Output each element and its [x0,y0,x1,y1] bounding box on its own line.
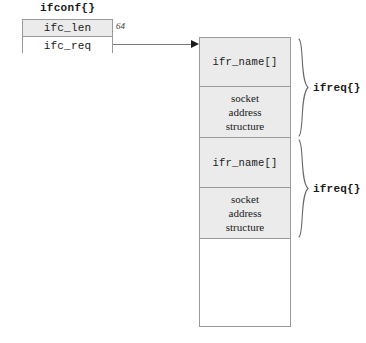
ifreq-1-sockaddr-cell: socket address structure [200,188,290,239]
ifreq-0-sockaddr-line-1: socket [231,91,259,105]
ifreq-1-sockaddr-line-1: socket [231,192,259,206]
ifreq-1-brace-icon [297,139,310,238]
ifconf-field-ifc-req-label: ifc_req [44,40,92,52]
ifreq-0-ifr-name-cell: ifr_name[] [200,38,290,87]
ifconf-struct-box: ifc_len ifc_req [22,19,113,53]
ifreq-0-label: ifreq{} [313,82,361,94]
ifreq-0-brace-icon [297,38,310,137]
ifreq-0-sockaddr-line-2: address [229,105,262,119]
ifreq-1-sockaddr-line-3: structure [226,220,264,234]
ifreq-0-sockaddr-cell: socket address structure [200,87,290,138]
ifconf-struct-title: ifconf{} [22,2,113,14]
diagram-canvas: ifconf{} ifc_len ifc_req 64 ifr_name[] s… [0,0,366,343]
ifreq-0-sockaddr-line-3: structure [226,119,264,133]
ifc-len-value-annotation: 64 [116,21,125,31]
ifreq-buffer-unused-region [200,239,290,326]
ifreq-buffer-box: ifr_name[] socket address structure ifr_… [199,37,291,327]
ifreq-0-ifr-name-label: ifr_name[] [212,56,277,68]
ifconf-field-ifc-len-label: ifc_len [44,22,92,34]
ifreq-1-label: ifreq{} [313,183,361,195]
ifreq-1-ifr-name-cell: ifr_name[] [200,138,290,188]
ifc-req-pointer-arrowhead-icon [191,40,199,48]
ifreq-1-sockaddr-line-2: address [229,206,262,220]
ifc-req-pointer-line [113,44,197,45]
ifconf-field-ifc-len: ifc_len [23,20,112,37]
ifconf-field-ifc-req: ifc_req [23,37,112,54]
ifreq-1-ifr-name-label: ifr_name[] [212,157,277,169]
